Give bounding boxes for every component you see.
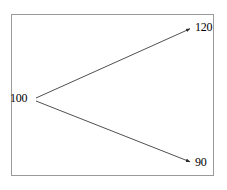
node-label-down: 90 bbox=[195, 156, 207, 168]
edge-down-branch bbox=[36, 101, 190, 162]
node-label-root: 100 bbox=[10, 92, 27, 104]
node-label-up: 120 bbox=[195, 21, 212, 33]
binomial-tree-figure: 100 120 90 bbox=[0, 0, 227, 190]
edge-up-branch bbox=[36, 29, 190, 98]
diagram-canvas bbox=[0, 0, 227, 190]
